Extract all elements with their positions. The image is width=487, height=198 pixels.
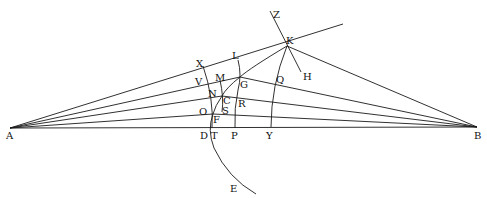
label-V: V bbox=[194, 76, 203, 87]
curve-K-E bbox=[210, 46, 287, 194]
diagram-svg: A B K Z H X L V M G Q N C R O S F D T P … bbox=[0, 0, 487, 198]
label-G: G bbox=[240, 79, 248, 90]
label-R: R bbox=[238, 98, 246, 109]
label-L: L bbox=[232, 50, 239, 61]
label-M: M bbox=[215, 72, 225, 83]
label-K: K bbox=[286, 35, 294, 46]
geometric-diagram: A B K Z H X L V M G Q N C R O S F D T P … bbox=[0, 0, 487, 198]
label-A: A bbox=[5, 130, 14, 141]
label-B: B bbox=[474, 130, 481, 141]
line-B-F bbox=[213, 114, 477, 127]
label-H: H bbox=[303, 71, 312, 82]
label-X: X bbox=[196, 58, 204, 69]
label-D: D bbox=[200, 130, 208, 141]
line-A-C bbox=[10, 96, 222, 128]
arc-L-P bbox=[235, 60, 240, 128]
label-Q: Q bbox=[276, 74, 284, 85]
label-N: N bbox=[208, 88, 217, 99]
label-O: O bbox=[199, 106, 207, 117]
line-B-C bbox=[222, 96, 477, 127]
line-B-K bbox=[287, 46, 477, 127]
label-S: S bbox=[222, 105, 229, 116]
label-Z: Z bbox=[273, 9, 280, 20]
label-P: P bbox=[231, 130, 238, 141]
line-AB bbox=[10, 127, 477, 128]
label-T: T bbox=[211, 130, 218, 141]
label-F: F bbox=[213, 114, 220, 125]
label-E: E bbox=[230, 183, 237, 194]
label-Y: Y bbox=[265, 130, 273, 141]
